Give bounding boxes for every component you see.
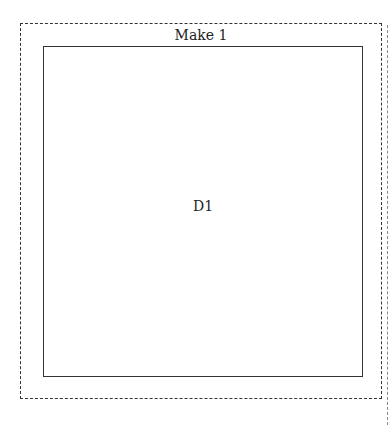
frame-title: Make 1 (21, 26, 381, 44)
d1-box[interactable]: D1 (43, 46, 363, 377)
d1-label: D1 (44, 197, 362, 215)
parent-frame-edge (387, 25, 388, 425)
